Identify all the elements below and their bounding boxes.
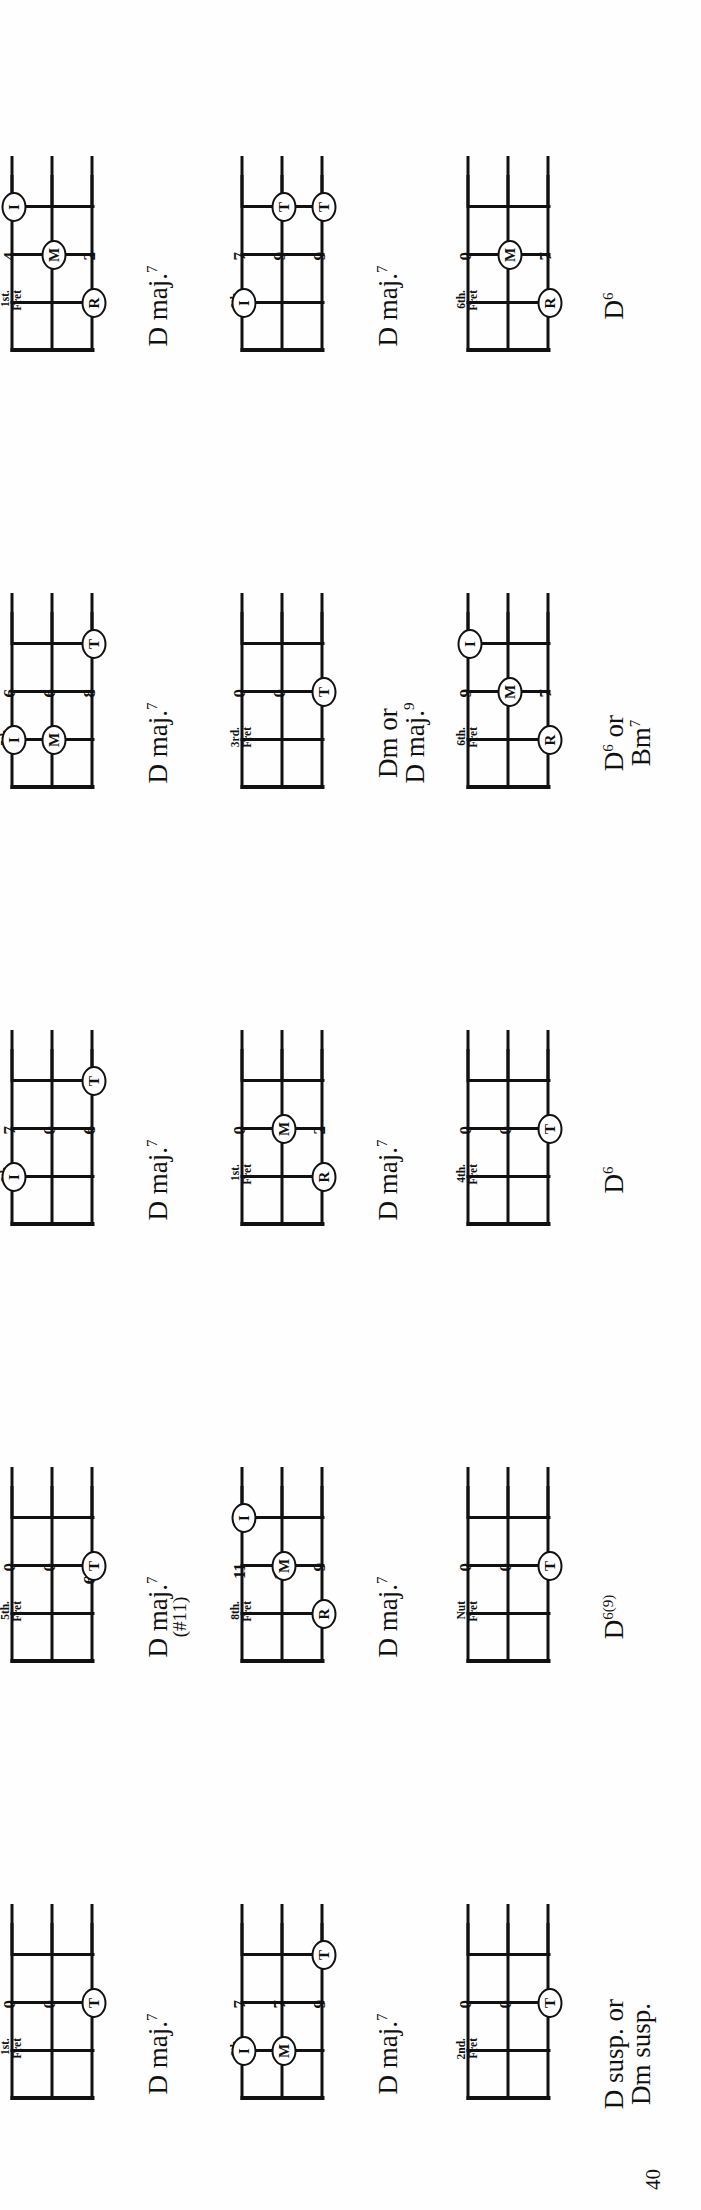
finger-marker-i: I — [231, 1503, 256, 1533]
fret-position-label: 1st. — [0, 290, 10, 346]
string-tail — [90, 175, 93, 205]
fret-number: 0 — [0, 1563, 19, 1603]
string-tail — [466, 1486, 469, 1516]
chord-name-root: Dm or — [372, 708, 402, 778]
fret-number: 6 — [0, 689, 19, 729]
finger-marker-i: I — [1, 1162, 26, 1192]
finger-marker-r: R — [81, 288, 106, 318]
chord-cell: T0021st.FretD maj.7 — [6, 1812, 220, 2204]
chord-cell: T001NutFretD6(9) — [462, 1375, 676, 1767]
fret-number: 0 — [455, 252, 475, 292]
chord-name-superscript: 7 — [143, 1577, 159, 1585]
fret-number: 9 — [309, 252, 329, 292]
finger-marker-t: T — [537, 1988, 562, 2018]
chord-name: D susp. orDm susp. — [600, 1904, 654, 2204]
chord-name-root: D maj. — [142, 1147, 172, 1221]
fret-number-column: 668 — [6, 689, 98, 729]
fret-number-column: 799 — [236, 252, 328, 292]
chord-diagram: T0054th.Fret — [466, 1030, 592, 1226]
fret-number: 0 — [495, 1563, 515, 1603]
page-number: 40 — [640, 2169, 665, 2190]
chord-name: D maj.7 — [374, 156, 401, 456]
chord-diagram: T006½5th.Fret — [10, 1467, 136, 1663]
fret-position-label: 6th. — [454, 727, 466, 783]
fret-position-label: 6th. — [454, 290, 466, 346]
string-tail — [466, 1049, 469, 1079]
chord-name-superscript: 7 — [373, 1140, 389, 1148]
chord-diagram: IMT6685th.Fret — [10, 593, 136, 789]
string-tail — [320, 612, 323, 642]
finger-marker-i: I — [231, 288, 256, 318]
chord-name-root: D maj. — [372, 1147, 402, 1221]
fret-number: 0 — [39, 1563, 59, 1603]
chord-cell: MR0321st.FretD maj.7 — [236, 938, 450, 1330]
finger-marker-i: I — [457, 629, 482, 659]
string-tail — [90, 1923, 93, 1953]
nut-line — [240, 1222, 324, 1226]
fret-position-label: 5th. — [0, 1601, 10, 1657]
chord-cell: T006½5th.FretD maj.7(#11) — [6, 1375, 220, 1767]
chord-name-conjunction: or — [598, 715, 628, 744]
fret-number-column: 706 — [6, 1126, 98, 1166]
fret-word-label: Fret — [240, 727, 252, 783]
fret-number: 9 — [309, 1563, 329, 1603]
string-tail — [280, 1923, 283, 1953]
chord-row-3: T0032nd.FretD susp. orDm susp.T001NutFre… — [462, 0, 680, 2210]
fret-word-label: Fret — [10, 290, 22, 346]
chord-name-line2-root: Bm — [625, 727, 655, 766]
chord-diagram: IMR111098th.Fret — [240, 1467, 366, 1663]
string-tail — [546, 1486, 549, 1516]
chord-diagram: MR0876th.Fret — [466, 156, 592, 352]
chord-name-superscript: 7 — [373, 1577, 389, 1585]
nut-line — [466, 2096, 550, 2100]
chord-cell: T0054th.FretD6 — [462, 938, 676, 1330]
string-tail — [90, 1486, 93, 1516]
finger-marker-t: T — [311, 677, 336, 707]
fret-number: 7 — [0, 1126, 19, 1166]
chord-name-superscript: 7 — [143, 1140, 159, 1148]
fret-word-label: Fret — [240, 1601, 252, 1657]
fret-number: 11 — [229, 1563, 249, 1603]
chord-name-root: D maj. — [142, 1584, 172, 1658]
chord-name-root: D maj. — [142, 710, 172, 784]
finger-marker-t: T — [311, 1940, 336, 1970]
string-tail — [50, 1049, 53, 1079]
fret-word-label: Fret — [466, 290, 478, 346]
chord-name-root: D susp. or — [598, 1999, 628, 2109]
chord-name-line2-superscript: 7 — [626, 720, 642, 728]
fret-position-caption: 6th.Fret — [454, 290, 478, 346]
fret-number: 0 — [495, 1126, 515, 1166]
fret-position-label: Nut — [454, 1601, 466, 1657]
fret-number: 2 — [79, 252, 99, 292]
chord-name-root: D — [598, 1620, 628, 1640]
string-tail — [50, 612, 53, 642]
fret-position-label: 2nd. — [454, 2038, 466, 2094]
fret-number: 7 — [269, 2000, 289, 2040]
string-tail — [10, 1049, 13, 1079]
string-tail — [466, 175, 469, 205]
chord-diagram: IMT7796th.Fret — [240, 1904, 366, 2100]
nut-line — [466, 1659, 550, 1663]
fret-position-label: 1st. — [0, 2038, 10, 2094]
nut-line — [10, 348, 94, 352]
string-tail — [546, 1049, 549, 1079]
fret-word-label: Fret — [466, 1164, 478, 1220]
fret-line — [466, 205, 550, 208]
string-tail — [240, 612, 243, 642]
fret-word-label: Fret — [466, 1601, 478, 1657]
chord-diagram: IT7066th.Fret — [10, 1030, 136, 1226]
chord-name-root: D maj. — [142, 2021, 172, 2095]
chord-diagram: T0032nd.Fret — [466, 1904, 592, 2100]
chord-diagram: T0043rd.Fret — [240, 593, 366, 789]
chord-name-root: D maj. — [372, 2021, 402, 2095]
finger-marker-i: I — [1, 192, 26, 222]
fret-number: 0 — [0, 2000, 19, 2040]
chord-cell: IMT7796th.FretD maj.7 — [236, 1812, 450, 2204]
chord-cell: ITT7996th.FretD maj.7 — [236, 64, 450, 456]
chord-name-root: D — [598, 752, 628, 772]
string-tail — [240, 175, 243, 205]
chord-cell: IMT6685th.FretD maj.7 — [6, 501, 220, 893]
finger-marker-t: T — [311, 192, 336, 222]
chord-name: D maj.7 — [144, 156, 171, 456]
nut-line — [240, 2096, 324, 2100]
